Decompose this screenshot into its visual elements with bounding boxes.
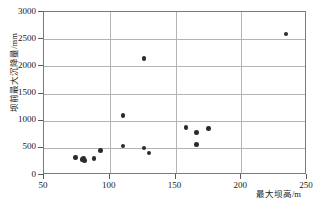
data-point bbox=[147, 151, 152, 156]
y-tick-mark bbox=[38, 65, 43, 66]
data-point bbox=[98, 148, 103, 153]
y-tick-label: 2000 bbox=[18, 61, 36, 70]
data-point bbox=[73, 155, 78, 160]
data-point bbox=[194, 142, 199, 147]
data-point bbox=[206, 126, 211, 131]
data-point bbox=[142, 56, 147, 61]
gridline-vertical bbox=[241, 12, 242, 173]
x-tick-mark bbox=[240, 174, 241, 179]
gridline-vertical bbox=[176, 12, 177, 173]
data-point bbox=[142, 146, 147, 151]
y-axis-title: 坝前最大沉降量/mm bbox=[10, 18, 19, 128]
data-point bbox=[184, 125, 189, 130]
gridline-horizontal bbox=[44, 148, 305, 149]
data-point bbox=[121, 113, 126, 118]
plot-area bbox=[43, 11, 306, 174]
scatter-chart: 050010001500200025003000 50100150200250 … bbox=[0, 0, 323, 205]
x-tick-label: 150 bbox=[168, 181, 182, 190]
data-point bbox=[82, 158, 87, 163]
y-tick-label: 3000 bbox=[18, 7, 36, 16]
y-tick-label: 500 bbox=[23, 142, 37, 151]
y-tick-mark bbox=[38, 147, 43, 148]
y-tick-label: 1500 bbox=[18, 88, 36, 97]
y-tick-mark bbox=[38, 93, 43, 94]
x-tick-mark bbox=[109, 174, 110, 179]
x-tick-label: 200 bbox=[234, 181, 248, 190]
x-axis-title: 最大坝高/m bbox=[256, 190, 301, 199]
data-point bbox=[194, 130, 199, 135]
gridline-vertical bbox=[110, 12, 111, 173]
gridline-horizontal bbox=[44, 94, 305, 95]
x-tick-label: 100 bbox=[102, 181, 116, 190]
x-tick-mark bbox=[43, 174, 44, 179]
x-tick-mark bbox=[306, 174, 307, 179]
y-tick-label: 0 bbox=[32, 170, 37, 179]
gridline-horizontal bbox=[44, 39, 305, 40]
y-tick-label: 1000 bbox=[18, 115, 36, 124]
x-tick-label: 50 bbox=[39, 181, 48, 190]
data-point bbox=[92, 156, 97, 161]
y-tick-mark bbox=[38, 120, 43, 121]
x-tick-label: 250 bbox=[299, 181, 313, 190]
y-tick-mark bbox=[38, 38, 43, 39]
y-tick-mark bbox=[38, 11, 43, 12]
x-tick-mark bbox=[175, 174, 176, 179]
y-tick-label: 2500 bbox=[18, 34, 36, 43]
gridline-horizontal bbox=[44, 66, 305, 67]
data-point bbox=[284, 32, 289, 37]
gridline-horizontal bbox=[44, 121, 305, 122]
